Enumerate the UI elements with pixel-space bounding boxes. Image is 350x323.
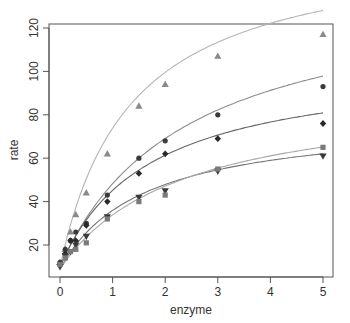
data-point-square: [136, 199, 141, 204]
data-point-circle: [136, 156, 141, 161]
data-point-triangle: [135, 102, 142, 108]
data-point-square: [163, 192, 168, 197]
data-point-triangle: [67, 228, 74, 234]
y-tick-label: 40: [27, 195, 41, 209]
data-point-circle: [105, 192, 110, 197]
scatter-chart: 012345 20406080100120 enzyme rate: [0, 0, 350, 323]
y-tick-label: 80: [27, 108, 41, 122]
x-tick-label: 5: [320, 285, 327, 299]
data-points: [56, 31, 326, 271]
y-tick-label: 120: [27, 18, 41, 38]
data-point-square: [73, 247, 78, 252]
y-axis-label: rate: [7, 139, 21, 160]
fit-curve-square: [60, 147, 323, 269]
data-point-square: [105, 216, 110, 221]
data-point-triangle: [83, 189, 90, 195]
x-tick-label: 3: [214, 285, 221, 299]
y-tick-label: 20: [27, 238, 41, 252]
fit-curve-circle: [60, 76, 323, 267]
y-tick-label: 100: [27, 61, 41, 81]
fit-curve-diamond: [60, 113, 323, 267]
data-point-square: [84, 240, 89, 245]
data-point-circle: [215, 112, 220, 117]
data-point-square: [63, 255, 68, 260]
data-point-triangle: [104, 150, 111, 156]
data-point-diamond: [320, 120, 326, 127]
plot-frame: [49, 24, 333, 277]
data-point-triangle: [162, 81, 169, 87]
data-point-square: [68, 249, 73, 254]
x-tick-label: 1: [109, 285, 116, 299]
data-point-circle: [163, 138, 168, 143]
fit-curves: [60, 10, 323, 269]
x-axis-label: enzyme: [170, 303, 212, 317]
fit-curve-triangle: [60, 10, 323, 266]
x-axis: 012345: [57, 277, 327, 299]
data-point-circle: [73, 229, 78, 234]
y-tick-label: 60: [27, 151, 41, 165]
y-axis: 20406080100120: [27, 18, 49, 252]
data-point-diamond: [104, 198, 110, 205]
data-point-triangle: [214, 52, 221, 58]
x-tick-label: 0: [57, 285, 64, 299]
data-point-square: [320, 145, 325, 150]
x-tick-label: 4: [267, 285, 274, 299]
x-tick-label: 2: [162, 285, 169, 299]
data-point-triangle: [319, 31, 326, 37]
data-point-circle: [320, 84, 325, 89]
fit-curve-inverted-triangle: [60, 154, 323, 269]
data-point-square: [215, 166, 220, 171]
data-point-square: [57, 262, 62, 267]
data-point-inverted-triangle: [319, 153, 326, 159]
